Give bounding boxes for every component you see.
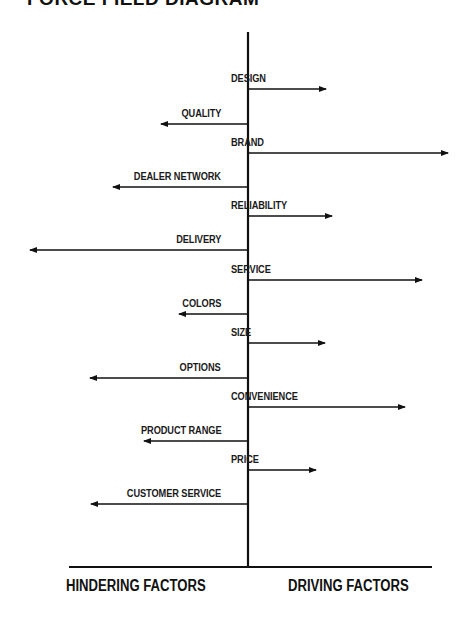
hindering-factors-label: HINDERING FACTORS [66, 577, 206, 595]
factor-arrows [30, 89, 448, 504]
factor-label: DEALER NETWORK [134, 170, 221, 182]
factor-label: COLORS [182, 297, 221, 309]
factor-label: PRICE [231, 453, 259, 465]
factor-label: QUALITY [181, 107, 221, 119]
factor-label: RELIABILITY [231, 199, 287, 211]
factor-label: SERVICE [231, 263, 271, 275]
factor-label: BRAND [231, 136, 264, 148]
factor-label: PRODUCT RANGE [141, 424, 221, 436]
factor-label: DESIGN [231, 72, 266, 84]
factor-label: DELIVERY [176, 233, 221, 245]
force-field-diagram [0, 0, 467, 625]
factor-label: SIZE [231, 326, 251, 338]
factor-label: CUSTOMER SERVICE [127, 487, 221, 499]
factor-label: OPTIONS [180, 361, 221, 373]
driving-factors-label: DRIVING FACTORS [288, 577, 409, 595]
factor-label: CONVENIENCE [231, 390, 298, 402]
